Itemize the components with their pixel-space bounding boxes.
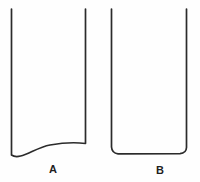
panel-label-b: B [151,165,169,176]
vessel-diagram [0,0,200,182]
panel-label-a: A [44,164,62,175]
figure-container: A B [0,0,200,182]
figure-background [0,0,200,182]
